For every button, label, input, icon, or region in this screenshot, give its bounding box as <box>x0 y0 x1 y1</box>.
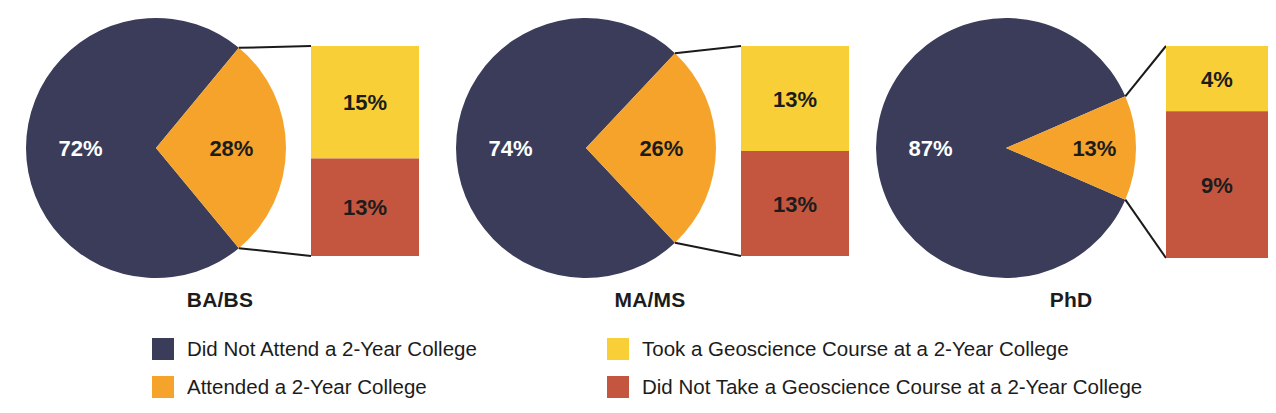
legend-column-2: Took a Geoscience Course at a 2-Year Col… <box>607 330 1142 406</box>
pie-chart-group-phd: 4%9%87%13%PhD <box>866 0 1276 318</box>
leader-line-bottom <box>675 243 741 256</box>
legend-swatch-icon <box>607 338 629 360</box>
pie-slice-value-label-did-not-attend: 74% <box>489 136 533 161</box>
pie-slice-value-label-attended: 28% <box>209 136 253 161</box>
chart-group-label: PhD <box>866 288 1276 312</box>
legend-label: Did Not Take a Geoscience Course at a 2-… <box>642 376 1142 398</box>
pie-slice-value-label-did-not-attend: 72% <box>59 136 103 161</box>
bar-segment-value-label: 9% <box>1201 173 1233 198</box>
legend-item[interactable]: Did Not Attend a 2-Year College <box>152 330 477 368</box>
geoscience-2year-college-figure: 15%13%72%28%BA/BS13%13%74%26%MA/MS4%9%87… <box>0 0 1276 413</box>
chart-group-label: BA/BS <box>8 288 432 312</box>
pie-and-bar-svg: 4%9%87%13% <box>866 0 1276 318</box>
legend-swatch-icon <box>607 376 629 398</box>
leader-line-top <box>675 46 741 53</box>
bar-segment-value-label: 15% <box>343 90 387 115</box>
pie-and-bar-svg: 13%13%74%26% <box>438 0 862 318</box>
leader-line-bottom <box>1125 200 1166 258</box>
legend-swatch-icon <box>152 376 174 398</box>
legend-item[interactable]: Took a Geoscience Course at a 2-Year Col… <box>607 330 1142 368</box>
bar-segment-value-label: 13% <box>773 87 817 112</box>
legend-label: Took a Geoscience Course at a 2-Year Col… <box>642 338 1069 360</box>
bar-segment-value-label: 13% <box>773 192 817 217</box>
bar-segment-value-label: 4% <box>1201 67 1233 92</box>
leader-line-top <box>239 46 311 48</box>
pie-chart-group-ba-bs: 15%13%72%28%BA/BS <box>8 0 432 318</box>
legend-swatch-icon <box>152 338 174 360</box>
pie-chart-group-ma-ms: 13%13%74%26%MA/MS <box>438 0 862 318</box>
charts-area: 15%13%72%28%BA/BS13%13%74%26%MA/MS4%9%87… <box>0 0 1276 318</box>
legend-label: Did Not Attend a 2-Year College <box>187 338 477 360</box>
pie-slice-value-label-attended: 13% <box>1072 136 1116 161</box>
pie-slice-value-label-attended: 26% <box>639 136 683 161</box>
legend-label: Attended a 2-Year College <box>187 376 427 398</box>
legend-item[interactable]: Did Not Take a Geoscience Course at a 2-… <box>607 368 1142 406</box>
bar-segment-value-label: 13% <box>343 195 387 220</box>
pie-slice-value-label-did-not-attend: 87% <box>909 136 953 161</box>
legend-column-1: Did Not Attend a 2-Year CollegeAttended … <box>152 330 477 406</box>
legend-item[interactable]: Attended a 2-Year College <box>152 368 477 406</box>
pie-and-bar-svg: 15%13%72%28% <box>8 0 432 318</box>
leader-line-bottom <box>239 248 311 256</box>
leader-line-top <box>1125 46 1166 96</box>
chart-group-label: MA/MS <box>438 288 862 312</box>
chart-legend: Did Not Attend a 2-Year CollegeAttended … <box>0 330 1276 413</box>
